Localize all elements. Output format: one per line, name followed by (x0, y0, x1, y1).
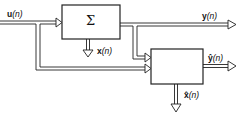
input-arg: (n) (12, 9, 22, 19)
output-label: y(n) (202, 12, 217, 21)
state-arg: (n) (102, 46, 112, 56)
state-estimate-arrow (171, 84, 181, 112)
state-estimate-label: x̂(n) (184, 91, 199, 100)
input-branch-arrow (36, 24, 151, 73)
input-arrow (0, 18, 62, 27)
output-estimate-label: ŷ(n) (208, 54, 223, 63)
state-estimate-arg: (n) (189, 90, 199, 100)
system-block-label: Σ (86, 13, 95, 28)
output-estimate-arg: (n) (213, 53, 223, 63)
estimator-block (151, 49, 203, 84)
input-label: u(n) (7, 10, 23, 19)
output-arg: (n) (207, 11, 217, 21)
output-branch-arrow (133, 26, 151, 62)
state-arrow (83, 39, 93, 57)
state-label: x(n) (97, 47, 112, 56)
